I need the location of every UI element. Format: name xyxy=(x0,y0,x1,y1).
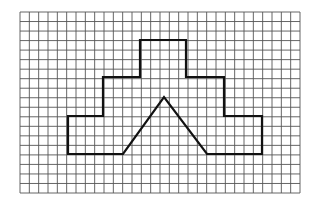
grid-diagram xyxy=(0,0,310,205)
